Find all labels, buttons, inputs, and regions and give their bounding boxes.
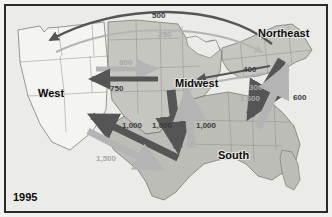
migration-flow-map-figure: West Midwest South Northeast 500 250 800…	[0, 0, 332, 217]
flow-arrow-south-to-midwest-1000	[187, 92, 192, 148]
us-map-graphic	[0, 0, 332, 217]
region-shape-northeast	[222, 24, 312, 78]
